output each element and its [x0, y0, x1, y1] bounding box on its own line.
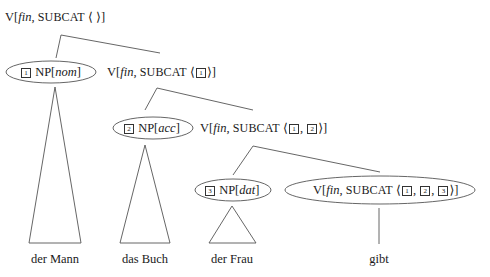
- node-v-subcat-3: V[fin, SUBCAT ⟨1, 2, 3⟩]: [313, 183, 458, 197]
- triangle-np-dat: [209, 206, 256, 243]
- tree-lines: [0, 0, 490, 277]
- tag-box: 2: [124, 124, 134, 134]
- triangle-np-nom: [29, 87, 81, 243]
- branch-v1: [145, 88, 253, 110]
- node-v-subcat-1: V[fin, SUBCAT ⟨1⟩]: [107, 65, 216, 79]
- word-gibt: gibt: [369, 252, 388, 267]
- branch-v2: [233, 146, 380, 175]
- tag-box: 1: [196, 68, 206, 78]
- tag-box: 1: [21, 68, 31, 78]
- tag-box: 1: [289, 124, 299, 134]
- tag-box: 3: [438, 186, 448, 196]
- branch-root: [56, 35, 160, 58]
- tag-box: 2: [420, 186, 430, 196]
- node-np-nom: 1 NP[nom]: [20, 65, 81, 79]
- node-np-acc: 2 NP[acc]: [123, 121, 180, 135]
- word-der-frau: der Frau: [211, 252, 253, 267]
- tag-box: 2: [307, 124, 317, 134]
- node-root: V[fin, SUBCAT ⟨ ⟩]: [5, 10, 105, 24]
- node-np-dat: 3 NP[dat]: [204, 183, 259, 197]
- tag-box: 1: [402, 186, 412, 196]
- node-v-subcat-2: V[fin, SUBCAT ⟨1, 2⟩]: [200, 121, 327, 135]
- word-das-buch: das Buch: [122, 252, 168, 267]
- tag-box: 3: [205, 186, 215, 196]
- word-der-mann: der Mann: [31, 252, 79, 267]
- triangle-np-acc: [120, 145, 170, 243]
